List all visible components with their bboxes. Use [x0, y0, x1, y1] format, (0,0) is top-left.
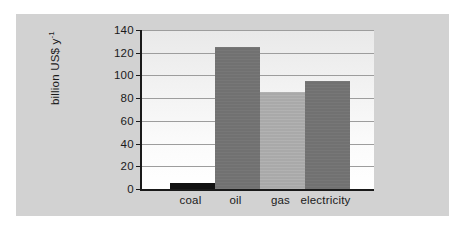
y-axis-tick-label: 120 — [114, 47, 134, 59]
bar-gas — [260, 92, 305, 189]
bar-oil — [215, 47, 260, 189]
y-axis-tick-mark — [136, 144, 141, 145]
bar-chart-figure: billion US$ y-1 020406080100120140 coalo… — [0, 0, 465, 230]
y-axis-tick-mark — [136, 75, 141, 76]
y-axis-tick-mark — [136, 166, 141, 167]
plot-area — [140, 30, 374, 191]
y-axis-title-text: billion US$ y — [49, 39, 61, 106]
gridline — [142, 30, 374, 31]
y-axis-tick-label: 20 — [121, 160, 134, 172]
x-axis-tick-labels: coaloilgaselectricity — [140, 194, 372, 212]
bar-coal — [170, 183, 215, 189]
y-axis-title: billion US$ y-1 — [49, 8, 61, 128]
y-axis-title-exponent: -1 — [47, 31, 56, 39]
y-axis-tick-mark — [136, 30, 141, 31]
y-axis-tick-label: 0 — [127, 183, 134, 195]
y-axis-tick-label: 60 — [121, 115, 134, 127]
y-axis-tick-mark — [136, 98, 141, 99]
y-axis-tick-mark — [136, 189, 141, 190]
y-axis-tick-label: 140 — [114, 24, 134, 36]
y-axis-tick-mark — [136, 121, 141, 122]
y-axis-tick-mark — [136, 53, 141, 54]
y-axis-tick-label: 80 — [121, 92, 134, 104]
y-axis-tick-label: 100 — [114, 69, 134, 81]
bar-electricity — [305, 81, 350, 189]
y-axis-tick-label: 40 — [121, 138, 134, 150]
x-axis-tick-label-electricity: electricity — [291, 194, 360, 206]
y-axis-tick-labels: 020406080100120140 — [98, 30, 134, 189]
